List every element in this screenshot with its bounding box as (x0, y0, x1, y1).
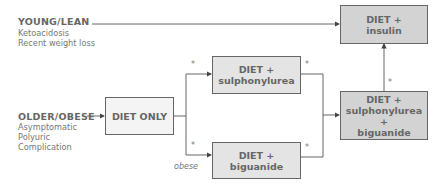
young-lean-criteria: Ketoacidosis Recent weight loss (18, 28, 95, 48)
box-label: DIET + (366, 14, 402, 25)
box-label: insulin (366, 25, 402, 36)
criterion: Asymptomatic (18, 122, 77, 132)
box-label: DIET + (218, 64, 294, 75)
box-diet-only: DIET ONLY (105, 97, 174, 135)
box-label: DIET + (341, 94, 427, 105)
star-marker: * (305, 143, 309, 152)
box-label: sulphonylurea + (341, 105, 427, 127)
older-obese-title: OLDER/OBESE (18, 111, 95, 122)
star-marker: * (191, 60, 195, 69)
criterion: Ketoacidosis (18, 28, 95, 38)
star-marker: * (191, 141, 195, 150)
star-marker: * (388, 78, 392, 87)
box-diet-insulin: DIET + insulin (340, 5, 428, 44)
box-label: biguanide (230, 161, 283, 172)
box-label: biguanide (341, 127, 427, 138)
older-obese-criteria: Asymptomatic Polyuric Complication (18, 122, 77, 152)
box-diet-sulphonylurea-biguanide: DIET + sulphonylurea + biguanide (340, 91, 428, 140)
box-label: sulphonylurea (218, 75, 294, 86)
star-marker: * (305, 60, 309, 69)
box-label: DIET + (230, 150, 283, 161)
box-diet-biguanide: DIET + biguanide (212, 142, 301, 179)
box-label: DIET ONLY (112, 111, 167, 122)
criterion: Polyuric (18, 132, 77, 142)
criterion: Recent weight loss (18, 38, 95, 48)
box-diet-sulphonylurea: DIET + sulphonylurea (212, 56, 301, 94)
criterion: Complication (18, 142, 77, 152)
obese-note: obese (174, 162, 198, 171)
young-lean-title: YOUNG/LEAN (18, 16, 89, 27)
